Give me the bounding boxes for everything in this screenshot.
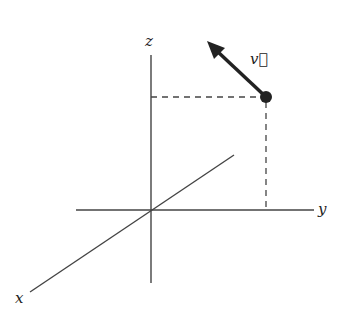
x-axis-label: x [15,291,23,306]
z-axis-label: z [145,34,153,49]
vector-diagram: z y x v⃗ [0,0,347,332]
y-axis-label: y [318,202,326,217]
x-axis [30,155,234,292]
axes-canvas [0,0,347,332]
vector-label: v⃗ [250,52,267,67]
vector-point [260,91,272,103]
